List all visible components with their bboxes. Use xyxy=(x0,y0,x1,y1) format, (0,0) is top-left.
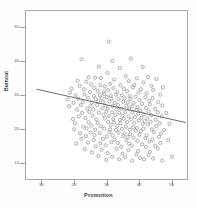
data-point xyxy=(154,144,157,147)
data-point xyxy=(138,133,141,136)
data-point xyxy=(129,57,132,60)
data-point xyxy=(155,124,158,127)
data-point xyxy=(83,147,86,150)
data-point xyxy=(125,90,128,93)
data-point xyxy=(94,128,97,131)
data-point xyxy=(159,132,162,135)
data-point xyxy=(128,94,131,97)
data-point xyxy=(107,114,110,117)
data-point xyxy=(73,128,76,131)
data-point xyxy=(130,144,133,147)
data-point xyxy=(124,156,127,159)
data-point xyxy=(102,113,105,116)
data-point xyxy=(110,111,113,114)
data-point xyxy=(90,83,93,86)
data-point xyxy=(115,108,118,111)
data-point xyxy=(73,122,76,125)
data-point xyxy=(107,120,110,123)
data-point xyxy=(142,158,145,161)
data-point xyxy=(154,118,157,121)
data-point xyxy=(117,98,120,101)
data-point xyxy=(124,110,127,113)
data-point xyxy=(103,85,106,88)
data-point xyxy=(96,89,99,92)
data-point xyxy=(105,158,108,161)
data-point xyxy=(157,101,160,104)
data-point xyxy=(132,136,135,139)
data-point xyxy=(144,96,147,99)
data-point xyxy=(139,156,142,159)
data-point xyxy=(77,115,80,118)
data-point xyxy=(120,94,123,97)
data-point xyxy=(99,142,102,145)
data-point xyxy=(81,100,84,103)
data-point xyxy=(163,128,166,131)
data-point xyxy=(125,104,128,107)
data-point xyxy=(86,96,89,99)
data-point xyxy=(138,98,141,101)
data-point xyxy=(159,93,162,96)
data-point xyxy=(99,76,102,79)
y-tick-label: 10 xyxy=(0,161,19,165)
data-point xyxy=(116,141,119,144)
data-point xyxy=(144,106,147,109)
data-point xyxy=(82,125,85,128)
data-point xyxy=(92,108,95,111)
data-point xyxy=(110,155,113,158)
data-point xyxy=(72,101,75,104)
data-point xyxy=(82,88,85,91)
data-point xyxy=(112,121,115,124)
data-point xyxy=(96,121,99,124)
data-point xyxy=(146,123,149,126)
x-axis-title: Promotion xyxy=(0,192,197,198)
scatter-plot-figure: 1020304050 1020304050 Burnout Promotion xyxy=(0,0,197,208)
data-point xyxy=(159,141,162,144)
data-point xyxy=(86,107,89,110)
data-point xyxy=(128,128,131,131)
data-point xyxy=(148,150,151,153)
data-point xyxy=(79,132,82,135)
data-point xyxy=(141,66,144,69)
data-point xyxy=(107,89,110,92)
data-point xyxy=(152,88,155,91)
data-point xyxy=(120,145,123,148)
data-point xyxy=(100,148,103,151)
data-point xyxy=(98,131,101,134)
data-point xyxy=(142,81,145,84)
data-point xyxy=(112,87,115,90)
data-point xyxy=(100,96,103,99)
data-point xyxy=(118,67,121,70)
data-point xyxy=(150,84,153,87)
data-point xyxy=(118,118,121,121)
data-point xyxy=(107,40,110,43)
data-point xyxy=(148,99,151,102)
data-point xyxy=(91,114,94,117)
data-point xyxy=(121,152,124,155)
data-point xyxy=(116,104,119,107)
data-point xyxy=(78,84,81,87)
data-point xyxy=(97,100,100,103)
data-point xyxy=(101,137,104,140)
data-point xyxy=(126,135,129,138)
data-point xyxy=(87,76,90,79)
data-point xyxy=(112,118,115,121)
data-point xyxy=(89,104,92,107)
data-point xyxy=(104,144,107,147)
data-point xyxy=(92,138,95,141)
data-point xyxy=(139,88,142,91)
data-point xyxy=(87,121,90,124)
data-point xyxy=(155,77,158,80)
x-tick-label: 20 xyxy=(64,183,84,187)
y-tick-mark xyxy=(20,95,25,96)
data-point xyxy=(120,127,123,130)
data-point xyxy=(85,80,88,83)
data-point xyxy=(68,91,71,94)
data-point xyxy=(94,76,97,79)
data-point xyxy=(119,122,122,125)
data-point xyxy=(135,153,138,156)
data-point xyxy=(124,125,127,128)
data-point xyxy=(129,97,132,100)
data-point xyxy=(97,154,100,157)
data-point xyxy=(124,75,127,78)
data-point xyxy=(80,58,83,61)
